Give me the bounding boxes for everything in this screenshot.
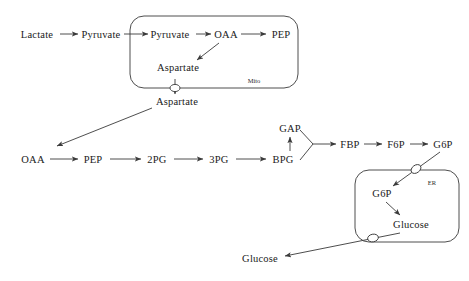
node-label-glucose_er: Glucose <box>393 219 429 230</box>
node-label-pg3: 3PG <box>209 154 228 165</box>
mito-compartment <box>130 16 298 88</box>
node-label-g6p_cyt: G6P <box>433 139 452 150</box>
node-label-pep_mito: PEP <box>272 29 291 40</box>
aspartate-transporter <box>170 84 180 91</box>
edge-aspartate-to-oaa-cyt <box>57 108 152 146</box>
node-label-aspartate_mito: Aspartate <box>157 62 199 73</box>
node-label-pep_cyt: PEP <box>84 154 103 165</box>
g6p-transporter <box>409 163 422 175</box>
node-label-glucose_out: Glucose <box>242 253 278 264</box>
node-label-g6p_er: G6P <box>372 188 391 199</box>
node-label-pyruvate_cyt: Pyruvate <box>82 29 121 40</box>
node-label-pg2: 2PG <box>147 154 166 165</box>
node-label-lactate: Lactate <box>21 29 53 40</box>
glucose-transporter <box>367 233 379 243</box>
node-label-aspartate_cyt: Aspartate <box>156 96 198 107</box>
edge-gap-bpg-fork <box>300 130 313 160</box>
node-label-pyruvate_mito: Pyruvate <box>151 29 190 40</box>
node-label-fbp: FBP <box>340 139 359 150</box>
node-label-bpg: BPG <box>272 154 293 165</box>
node-label-oaa_cyt: OAA <box>21 154 44 165</box>
node-label-f6p: F6P <box>387 139 405 150</box>
node-label-oaa_mito: OAA <box>214 29 237 40</box>
compartment-label-mito: Mito <box>248 77 261 84</box>
node-label-gap: GAP <box>279 123 301 134</box>
edge-glucose-out-of-er <box>285 233 400 256</box>
edge-oaa-to-aspartate <box>197 43 219 60</box>
compartment-label-er: ER <box>428 179 436 186</box>
edge-g6p-to-glucose-er <box>386 202 400 215</box>
er-compartment <box>355 170 459 242</box>
